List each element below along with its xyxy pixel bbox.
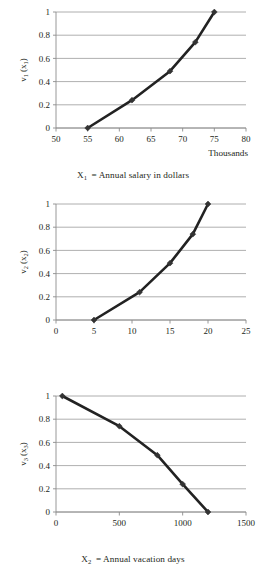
- x-tick-label-0: 0: [54, 518, 59, 528]
- chart-1-caption-rest: = Annual salary in dollars: [91, 170, 189, 180]
- x-tick-label-2: 1000: [174, 518, 193, 528]
- y-tick-label-3: 0.6: [39, 54, 51, 64]
- chart-1-caption: X1 = Annual salary in dollars: [0, 170, 266, 181]
- y-tick-label-3: 0.6: [39, 438, 51, 448]
- data-series-line: [88, 12, 215, 128]
- chart-panel-3: 00.20.40.60.81050010001500v3 (x3) X3 = M…: [0, 384, 266, 578]
- y-tick-label-2: 0.4: [39, 77, 51, 87]
- y-axis-label-arg: (x: [18, 448, 28, 458]
- y-axis-label-close: ): [18, 58, 28, 61]
- y-axis-label: v2 (x2): [18, 250, 29, 274]
- x-axis-note: Thousands: [208, 148, 248, 158]
- x-tick-label-6: 80: [242, 134, 252, 144]
- chart-2-plot: 00.20.40.60.810510152025v2 (x2): [0, 192, 266, 360]
- chart-panel-2: 00.20.40.60.810510152025v2 (x2) X2 = Ann…: [0, 192, 266, 384]
- y-axis-label-arg: (x: [18, 256, 28, 266]
- y-axis-label: v3 (x3): [18, 442, 29, 466]
- x-tick-label-5: 75: [210, 134, 220, 144]
- y-tick-label-3: 0.6: [39, 246, 51, 256]
- x-tick-label-4: 20: [204, 326, 214, 336]
- y-axis-label-text: v2 (x2): [18, 250, 29, 274]
- y-tick-label-0: 0: [46, 123, 51, 133]
- x-tick-label-3: 65: [147, 134, 157, 144]
- x-tick-label-1: 5: [92, 326, 97, 336]
- y-axis-label-close: ): [18, 250, 28, 253]
- y-axis-label-text: v1 (x1): [18, 58, 29, 82]
- chart-1-plot: 00.20.40.60.8150556065707580Thousandsv1 …: [0, 0, 266, 168]
- x-tick-label-4: 70: [178, 134, 188, 144]
- y-tick-label-1: 0.2: [39, 484, 50, 494]
- x-tick-label-3: 1500: [237, 518, 256, 528]
- figure-page: 00.20.40.60.8150556065707580Thousandsv1 …: [0, 0, 266, 578]
- chart-panel-1: 00.20.40.60.8150556065707580Thousandsv1 …: [0, 0, 266, 192]
- y-tick-label-0: 0: [46, 315, 51, 325]
- y-tick-label-4: 0.8: [39, 30, 51, 40]
- y-tick-label-2: 0.4: [39, 461, 51, 471]
- x-tick-label-0: 0: [54, 326, 59, 336]
- x-tick-label-5: 25: [242, 326, 252, 336]
- x-tick-label-2: 10: [128, 326, 138, 336]
- y-axis-label-text: v3 (x3): [18, 442, 29, 466]
- y-tick-label-1: 0.2: [39, 292, 50, 302]
- x-tick-label-1: 500: [113, 518, 127, 528]
- y-tick-label-2: 0.4: [39, 269, 51, 279]
- chart-1-caption-var: X: [77, 170, 84, 180]
- y-axis-label-arg: (x: [18, 64, 28, 74]
- x-tick-label-3: 15: [166, 326, 176, 336]
- data-series-line: [94, 204, 208, 320]
- x-tick-label-0: 50: [52, 134, 62, 144]
- chart-3-plot: 00.20.40.60.81050010001500v3 (x3): [0, 384, 266, 552]
- y-tick-label-5: 1: [46, 7, 51, 17]
- x-tick-label-2: 60: [115, 134, 125, 144]
- y-axis-label-close: ): [18, 442, 28, 445]
- x-tick-label-1: 55: [83, 134, 93, 144]
- data-series-line: [62, 396, 208, 512]
- y-tick-label-4: 0.8: [39, 414, 51, 424]
- y-tick-label-4: 0.8: [39, 222, 51, 232]
- y-tick-label-1: 0.2: [39, 100, 50, 110]
- y-tick-label-5: 1: [46, 199, 51, 209]
- y-axis-label: v1 (x1): [18, 58, 29, 82]
- y-tick-label-0: 0: [46, 507, 51, 517]
- y-tick-label-5: 1: [46, 391, 51, 401]
